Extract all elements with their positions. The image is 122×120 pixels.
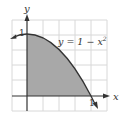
x-axis-label: x: [113, 91, 119, 102]
function-graph: y x 1 1 y = 1 − x2: [0, 0, 122, 120]
equation-main: y = 1 − x: [57, 36, 103, 47]
equation-label: y = 1 − x2: [57, 35, 107, 47]
equation-exponent: 2: [102, 35, 107, 42]
y-axis-label: y: [23, 3, 30, 14]
y-intercept-label: 1: [19, 28, 25, 38]
x-intercept-label: 1: [89, 98, 95, 108]
y-axis-arrow-icon: [25, 14, 30, 21]
